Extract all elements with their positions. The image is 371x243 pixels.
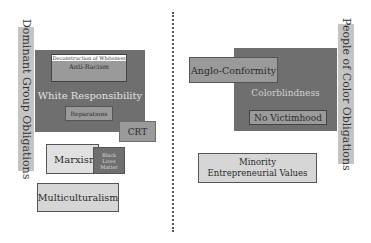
minority-entrepreneurial-values-label: Minority Entrepreneurial Values — [205, 157, 310, 179]
minority-entrepreneurial-values-box: Minority Entrepreneurial Values — [198, 153, 317, 183]
no-victimhood-label: No Victimhood — [254, 113, 322, 123]
crt-box: CRT — [119, 121, 156, 142]
multiculturalism-box: Multiculturalism — [37, 183, 119, 212]
multiculturalism-label: Multiculturalism — [38, 192, 118, 203]
white-responsibility-label: White Responsibility — [36, 90, 144, 101]
anglo-conformity-label: Anglo-Conformity — [191, 65, 276, 76]
no-victimhood-box: No Victimhood — [249, 110, 327, 125]
reparations-box: Reparations — [65, 106, 113, 121]
crt-label: CRT — [128, 127, 148, 137]
dominant-group-obligations-text: Dominant Group Obligations — [20, 19, 33, 179]
marxism-label: Marxism — [54, 154, 98, 165]
center-divider — [172, 12, 174, 232]
people-of-color-obligations-text: People of Color Obligations — [340, 18, 353, 171]
anglo-conformity-box: Anglo-Conformity — [189, 57, 278, 83]
anti-racism-box: Deconstruction of Whiteness Anti-Racism — [51, 54, 127, 82]
anti-racism-label: Anti-Racism — [69, 63, 109, 71]
marxism-box: Marxism — [46, 144, 99, 174]
reparations-label: Reparations — [71, 110, 108, 117]
black-lives-matter-box: Black Lives Matter — [93, 147, 125, 174]
black-lives-matter-label: Black Lives Matter — [95, 152, 123, 170]
dominant-group-obligations-label: Dominant Group Obligations — [18, 27, 34, 171]
people-of-color-obligations-label: People of Color Obligations — [338, 24, 354, 164]
colorblindness-label: Colorblindness — [235, 88, 336, 98]
deconstruction-of-whiteness-box: Deconstruction of Whiteness — [52, 55, 126, 61]
